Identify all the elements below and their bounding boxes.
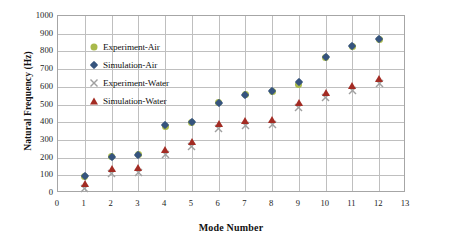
x-tick-label: 0 <box>47 198 67 208</box>
x-tick-label: 5 <box>181 198 201 208</box>
chart-figure: Natural Frequency (Hz) 01002003004005006… <box>0 0 460 243</box>
y-tick-label: 100 <box>23 169 53 179</box>
x-tick-label: 2 <box>101 198 121 208</box>
x-marker-icon <box>88 77 100 89</box>
triangle-marker-icon <box>88 95 100 107</box>
y-tick-label: 200 <box>23 152 53 162</box>
legend-item-experiment-water: Experiment-Water <box>88 74 206 92</box>
legend-item-simulation-water: Simulation-Water <box>88 92 206 110</box>
gridline-vertical <box>326 16 327 191</box>
gridline-vertical <box>379 16 380 191</box>
y-tick-label: 400 <box>23 116 53 126</box>
legend-item-simulation-air: Simulation-Air <box>88 56 206 74</box>
legend-label: Experiment-Water <box>103 78 169 88</box>
gridline-vertical <box>85 16 86 191</box>
gridline-vertical <box>219 16 220 191</box>
y-tick-label: 300 <box>23 134 53 144</box>
x-tick-label: 3 <box>127 198 147 208</box>
y-tick-label: 500 <box>23 99 53 109</box>
y-tick-label: 1000 <box>23 10 53 20</box>
x-tick-label: 12 <box>368 198 388 208</box>
y-tick-label: 0 <box>23 187 53 197</box>
x-tick-label: 9 <box>288 198 308 208</box>
x-tick-label: 8 <box>261 198 281 208</box>
y-tick-label: 700 <box>23 63 53 73</box>
legend-label: Simulation-Air <box>103 60 157 70</box>
y-tick-label: 900 <box>23 28 53 38</box>
gridline-vertical <box>352 16 353 191</box>
x-tick-label: 6 <box>208 198 228 208</box>
x-tick-label: 4 <box>154 198 174 208</box>
x-tick-label: 11 <box>341 198 361 208</box>
y-tick-label: 600 <box>23 81 53 91</box>
x-tick-label: 10 <box>315 198 335 208</box>
chart-legend: Experiment-AirSimulation-AirExperiment-W… <box>88 38 206 110</box>
x-tick-label: 13 <box>395 198 415 208</box>
x-tick-label: 7 <box>234 198 254 208</box>
circle-marker-icon <box>88 41 100 53</box>
legend-item-experiment-air: Experiment-Air <box>88 38 206 56</box>
gridline-vertical <box>272 16 273 191</box>
legend-label: Experiment-Air <box>103 42 160 52</box>
legend-label: Simulation-Water <box>103 96 167 106</box>
gridline-vertical <box>245 16 246 191</box>
diamond-marker-icon <box>88 59 100 71</box>
x-tick-label: 1 <box>74 198 94 208</box>
x-axis-title: Mode Number <box>57 222 405 233</box>
gridline-vertical <box>299 16 300 191</box>
y-tick-label: 800 <box>23 45 53 55</box>
